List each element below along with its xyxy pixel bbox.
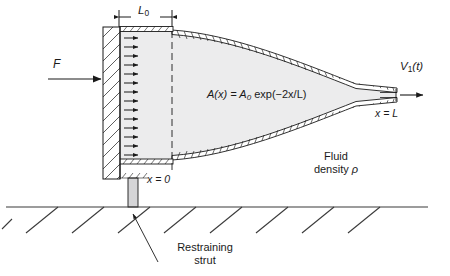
area-equation-tail: exp(−2x/L)	[251, 88, 306, 100]
station-exit-label: x = L	[375, 107, 398, 119]
fluid-density-label: Fluid density ρ	[300, 150, 372, 175]
fluid-density-line2: density	[314, 163, 352, 175]
chamber-length-label: L0	[138, 4, 149, 18]
exit-velocity-symbol: V	[400, 60, 408, 72]
area-equation-head: A(x) = A	[207, 88, 247, 100]
exit-velocity-label: V1(t)	[400, 60, 423, 74]
fluid-density-line1: Fluid	[324, 150, 348, 162]
rho-symbol: ρ	[352, 163, 358, 175]
ground-hatching	[2, 207, 380, 233]
nozzle-diagram	[0, 0, 450, 276]
chamber-top-cap	[119, 27, 173, 32]
exit-velocity-tail: (t)	[412, 60, 423, 72]
piston-wall	[100, 16, 124, 208]
chamber-length-subscript: 0	[144, 8, 149, 18]
strut-flange	[120, 173, 148, 178]
restraining-strut-label: Restraining strut	[162, 241, 248, 266]
area-equation: A(x) = A0 exp(−2x/L)	[207, 88, 306, 102]
strut-label-line2: strut	[194, 254, 215, 266]
restraining-strut	[128, 178, 138, 207]
strut-label-line1: Restraining	[177, 241, 233, 253]
station-inlet-label: x = 0	[147, 173, 170, 185]
chamber-bottom-cap	[119, 159, 173, 164]
force-label: F	[53, 58, 60, 72]
strut-leader-line	[133, 214, 158, 262]
